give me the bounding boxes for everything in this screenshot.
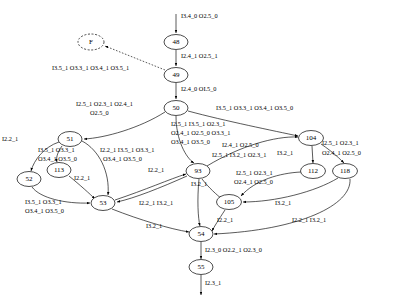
node-118[interactable]: 118 (333, 164, 358, 179)
edge-label-51-53-b: O3.4_1 O3.5_0 (103, 155, 142, 162)
node-50-label: 50 (173, 104, 181, 112)
edge-label-104-118-a: I2.5_1 O2.3_1 (322, 139, 359, 146)
edge-label-53-54: I3.2_1 (146, 222, 162, 229)
node-112[interactable]: 112 (301, 164, 326, 179)
edge-label-55-end: I2.3_1 (205, 279, 221, 286)
node-F[interactable]: F (78, 34, 104, 50)
node-49[interactable]: 49 (164, 68, 188, 83)
node-53-label: 53 (100, 199, 108, 207)
node-55-label: 55 (198, 263, 206, 271)
edge-label-53-93: I2.2_1 (148, 166, 164, 173)
edge-label-104-118-b: O2.4_1 O2.5_0 (322, 149, 361, 156)
edge-label-54-55: I2.3_0 O2.2_1 O2.3_0 (205, 246, 262, 253)
node-48-label: 48 (173, 38, 181, 46)
edge-label-118-105: I3.2_1 (275, 199, 291, 206)
edge-label-50-93-b: O2.4_1 O2.5_0 O3.3_1 (171, 129, 230, 136)
node-104-label: 104 (306, 134, 317, 142)
node-104[interactable]: 104 (299, 131, 324, 146)
graph-canvas: F 48 49 50 51 113 (0, 0, 393, 308)
node-52[interactable]: 52 (17, 172, 41, 187)
node-112-label: 112 (308, 167, 319, 175)
edge-label-50-51-a: I2.5_1 O2.3_1 O2.4_1 (76, 100, 133, 107)
node-105[interactable]: 105 (217, 195, 242, 210)
edge-label-51-113-a: I3.5_1 O3.3_1 (38, 146, 75, 153)
edge-label-93-53: I2.2_1 I3.2_1 (139, 199, 173, 206)
edge-label-113-53: I2.2_1 (74, 174, 90, 181)
edge-label-50-104: I3.5_1 O3.3_1 O3.4_1 O3.5_0 (216, 104, 293, 111)
node-51[interactable]: 51 (58, 132, 82, 147)
node-55[interactable]: 55 (189, 260, 213, 275)
edge-label-50-93-c: O3.4_1 O3.5_0 (171, 138, 210, 145)
edge-label-52-53-a: I3.5_1 O3.3_1 (25, 198, 62, 205)
state-diagram: F 48 49 50 51 113 (0, 0, 393, 308)
edge-label-51-53-a: I2.2_1 I3.5_1 O3.3_1 (100, 146, 154, 153)
edge-label-93-105: I3.2_1 (191, 180, 207, 187)
node-49-label: 49 (173, 71, 181, 79)
edge-label-105-54: I2.2_1 (217, 216, 233, 223)
node-48[interactable]: 48 (164, 35, 188, 50)
node-53[interactable]: 53 (91, 196, 115, 211)
edge-label-51-52: I2.2_1 (2, 135, 18, 142)
node-54-label: 54 (198, 230, 206, 238)
edge-label-118-54: I2.2_1 I3.2_1 (292, 216, 326, 223)
node-113[interactable]: 113 (47, 163, 71, 178)
node-105-label: 105 (224, 198, 235, 206)
edge-label-93-104-b: I2.5_1 I3.2_1 O2.3_1 (212, 151, 266, 158)
node-113-label: 113 (54, 166, 65, 174)
edge-label-52-53-b: O3.4_1 O3.5_0 (25, 207, 64, 214)
edge-label-51-113-b: O3.4_1 O3.5_0 (38, 155, 77, 162)
edge-labels-layer: I3.4_0 O2.5_0 I2.4_1 O2.5_1 I3.5_1 O3.3_… (2, 12, 361, 286)
node-54[interactable]: 54 (189, 227, 213, 242)
edge-104-112 (312, 146, 313, 163)
node-93[interactable]: 93 (186, 164, 210, 179)
node-F-label: F (89, 38, 93, 46)
edge-label-112-105-a: I2.5_1 O2.3_1 (236, 169, 273, 176)
node-51-label: 51 (67, 135, 75, 143)
node-50[interactable]: 50 (164, 101, 188, 116)
node-118-label: 118 (340, 167, 351, 175)
edge-label-50-93-a: I2.5_1 I3.5_1 O2.3_1 (171, 120, 225, 127)
edge-label-93-104-a: I2.4_1 O2.5_0 (222, 141, 259, 148)
edge-label-112-105-b: O2.4_1 O2.5_0 (234, 178, 273, 185)
node-52-label: 52 (26, 175, 34, 183)
edge-53-93 (115, 174, 186, 200)
edge-label-50-51-b: O2.5_0 (90, 109, 109, 116)
node-93-label: 93 (195, 167, 203, 175)
edge-label-start-48: I3.4_0 O2.5_0 (181, 12, 218, 19)
edge-label-104-112: I3.2_1 (277, 149, 293, 156)
edge-label-49-F: I3.5_1 O3.3_1 O3.4_1 O3.5_1 (52, 64, 129, 71)
edge-label-49-50: I2.4_0 OI.5_0 (181, 85, 217, 92)
edge-50-51 (84, 112, 165, 139)
edge-label-48-49: I2.4_1 O2.5_1 (181, 52, 218, 59)
